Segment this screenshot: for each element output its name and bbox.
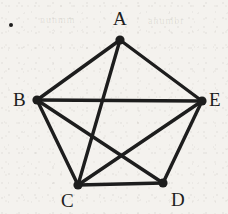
graph-node-c [73, 180, 82, 189]
graph-node-d [158, 178, 167, 187]
vertex-label-d: D [171, 190, 185, 209]
graph-edge-be [37, 100, 202, 101]
vertex-label-a: A [113, 9, 127, 28]
graph-edge-ac [78, 40, 120, 185]
graph-edge-ab [37, 40, 120, 100]
graph-figure: nunmmanumbr ABCDE [0, 0, 228, 214]
vertex-label-e: E [209, 90, 221, 109]
edge-layer [37, 40, 202, 185]
graph-node-a [115, 35, 124, 44]
graph-edge-ae [120, 40, 202, 101]
graph-node-b [32, 95, 41, 104]
graph-node-e [197, 96, 206, 105]
vertex-label-b: B [13, 90, 26, 109]
vertex-label-c: C [61, 191, 74, 210]
graph-canvas [0, 0, 228, 214]
graph-edge-cd [78, 183, 163, 185]
